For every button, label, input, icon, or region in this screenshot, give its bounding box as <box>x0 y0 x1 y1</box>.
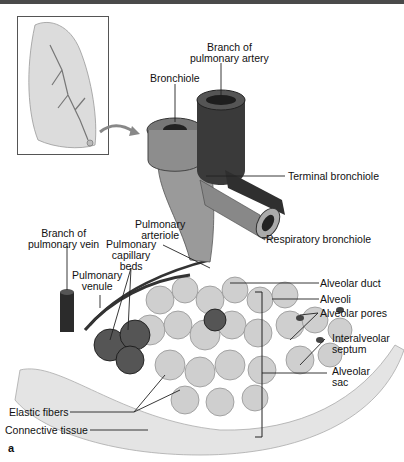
lung-thumbnail <box>29 22 96 147</box>
label-line: venule <box>72 281 122 292</box>
label-pulmonary-capillary-beds: Pulmonary capillary beds <box>106 239 156 272</box>
pulmonary-vein-cylinder <box>60 292 74 332</box>
label-elastic-fibers: Elastic fibers <box>9 407 69 418</box>
label-branch-pulmonary-artery: Branch of pulmonary artery <box>190 42 269 64</box>
label-line: pulmonary vein <box>28 239 99 250</box>
label-respiratory-bronchiole: Respiratory bronchiole <box>266 234 371 245</box>
label-connective-tissue: Connective tissue <box>5 425 88 436</box>
label-bronchiole: Bronchiole <box>150 73 200 84</box>
label-line: sac <box>332 377 370 388</box>
label-pulmonary-venule: Pulmonary venule <box>72 270 122 292</box>
pulmonary-artery-tube <box>197 100 245 185</box>
label-alveolar-sac: Alveolar sac <box>332 366 370 388</box>
label-terminal-bronchiole: Terminal bronchiole <box>288 171 379 182</box>
label-alveolar-duct: Alveolar duct <box>320 278 381 289</box>
label-interalveolar-septum: Interalveolar septum <box>332 333 390 355</box>
arrow-icon <box>100 126 134 132</box>
label-line: septum <box>332 344 390 355</box>
panel-letter: a <box>8 442 14 454</box>
label-alveoli: Alveoli <box>320 294 351 305</box>
label-line: pulmonary artery <box>190 53 269 64</box>
label-alveolar-pores: Alveolar pores <box>320 308 387 319</box>
label-branch-pulmonary-vein: Branch of pulmonary vein <box>28 228 99 250</box>
